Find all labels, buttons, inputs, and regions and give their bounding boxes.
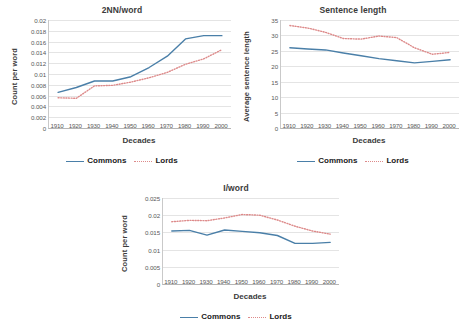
x-tick-label: 1910 [164,278,177,285]
chart-panel-2nn-per-word: 2NN/word Count per word 00.0020.0040.006… [8,4,236,180]
chart-panel-sentence-length: Sentence length Average sentence length … [240,4,466,180]
y-tick-label: 35 [271,17,278,24]
legend-label-commons: Commons [87,156,126,166]
legend-label-lords: Lords [269,312,291,322]
x-axis-title: Decades [162,292,338,301]
y-tick-label: 0 [43,125,46,132]
plot-wrapper: Average sentence length 05101520253035 [240,16,466,136]
plot-area [162,198,339,285]
chart-title: 2NN/word [8,4,236,16]
y-tick-label: 0.002 [31,114,46,121]
x-tick-label: 1950 [123,122,136,129]
x-tick-label: 1920 [300,122,313,129]
x-tick-label: 1990 [425,122,438,129]
series-lines [49,20,231,128]
legend-swatch-lords-icon [134,161,152,162]
legend-item-commons[interactable]: Commons [66,156,126,166]
plot-area [280,20,459,129]
legend-item-commons[interactable]: Commons [297,156,357,166]
x-tick-label: 1960 [252,278,265,285]
series-line-commons [172,230,330,243]
y-tick-label: 0.025 [145,195,160,202]
x-tick-label: 1910 [51,122,64,129]
legend-label-lords: Lords [386,156,408,166]
x-tick-label: 1950 [235,278,248,285]
y-tick-label: 0.005 [145,263,160,270]
legend-swatch-lords-icon [248,317,266,318]
series-line-lords [172,215,330,235]
y-axis-tick-labels: 05101520253035 [240,20,280,128]
x-tick-label: 2000 [443,122,456,129]
x-tick-label: 2000 [214,122,227,129]
plot-wrapper: Count per word 00.0020.0040.0060.0080.01… [8,16,236,136]
legend-swatch-commons-icon [66,161,84,162]
x-axis-title: Decades [280,136,458,145]
x-tick-label: 1980 [407,122,420,129]
x-axis-tick-labels: 1910192019301940195019601970198019902000 [280,122,458,134]
y-tick-label: 0.004 [31,103,46,110]
y-tick-label: 0.016 [31,38,46,45]
chart-legend: Commons Lords [18,156,226,166]
plot-area [48,20,231,129]
y-tick-label: 0.01 [148,246,160,253]
chart-panel-i-per-word: I/word Count per word 00.0050.010.0150.0… [118,182,354,334]
x-tick-label: 1920 [182,278,195,285]
legend-label-commons: Commons [201,312,240,322]
x-tick-label: 1930 [87,122,100,129]
x-tick-label: 1980 [288,278,301,285]
x-tick-label: 1970 [160,122,173,129]
x-tick-label: 1960 [142,122,155,129]
x-tick-label: 1950 [354,122,367,129]
x-tick-label: 1930 [200,278,213,285]
y-tick-label: 25 [271,47,278,54]
series-lines [163,198,339,284]
series-line-lords [58,50,222,99]
y-tick-label: 30 [271,32,278,39]
legend-label-lords: Lords [155,156,177,166]
chart-legend: Commons Lords [128,312,344,322]
x-tick-label: 1960 [371,122,384,129]
y-axis-tick-labels: 00.0020.0040.0060.0080.010.0120.0140.016… [8,20,48,128]
x-tick-label: 1990 [196,122,209,129]
legend-swatch-commons-icon [297,161,315,162]
y-tick-label: 0.006 [31,92,46,99]
legend-item-lords[interactable]: Lords [248,312,291,322]
series-lines [281,20,459,128]
legend-swatch-commons-icon [180,317,198,318]
x-tick-label: 1920 [69,122,82,129]
three-panel-line-chart-figure: 2NN/word Count per word 00.0020.0040.006… [0,0,468,336]
y-tick-label: 0.02 [148,212,160,219]
y-tick-label: 0.01 [34,71,46,78]
x-axis-tick-labels: 1910192019301940195019601970198019902000 [48,122,230,134]
series-line-commons [290,48,450,63]
legend-label-commons: Commons [318,156,357,166]
y-tick-label: 20 [271,63,278,70]
y-tick-label: 0.008 [31,81,46,88]
chart-title: Sentence length [240,4,466,16]
x-axis-title: Decades [48,136,230,145]
x-tick-label: 1980 [178,122,191,129]
legend-item-commons[interactable]: Commons [180,312,240,322]
y-tick-label: 5 [275,109,278,116]
x-tick-label: 2000 [323,278,336,285]
x-tick-label: 1910 [282,122,295,129]
x-tick-label: 1940 [336,122,349,129]
legend-swatch-lords-icon [365,161,383,162]
x-tick-label: 1970 [270,278,283,285]
y-tick-label: 10 [271,94,278,101]
y-tick-label: 0.014 [31,49,46,56]
series-line-commons [58,36,222,93]
y-tick-label: 0 [157,281,160,288]
y-axis-tick-labels: 00.0050.010.0150.020.025 [118,198,162,284]
y-tick-label: 0.02 [34,17,46,24]
legend-item-lords[interactable]: Lords [365,156,408,166]
y-tick-label: 0 [275,125,278,132]
y-tick-label: 0.012 [31,60,46,67]
x-tick-label: 1990 [305,278,318,285]
y-tick-label: 15 [271,78,278,85]
x-tick-label: 1940 [105,122,118,129]
x-tick-label: 1940 [217,278,230,285]
legend-item-lords[interactable]: Lords [134,156,177,166]
x-tick-label: 1970 [389,122,402,129]
x-tick-label: 1930 [318,122,331,129]
